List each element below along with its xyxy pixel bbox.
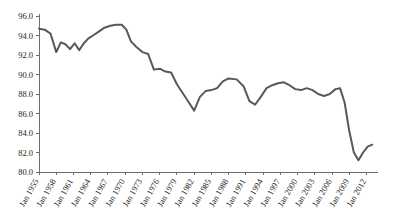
y-tick-label: 88.0 [18,89,33,99]
y-tick-label: 92.0 [18,50,33,60]
y-tick-label: 90.0 [18,70,33,80]
chart-canvas: 96.094.092.090.088.086.084.082.080.0 Jan… [0,0,393,223]
y-tick-label: 94.0 [18,31,33,41]
y-tick-label: 84.0 [18,128,33,138]
line-chart: 96.094.092.090.088.086.084.082.080.0 Jan… [0,0,393,223]
y-axis-tick-labels: 96.094.092.090.088.086.084.082.080.0 [18,11,33,177]
y-tick-label: 96.0 [18,11,33,21]
data-series-line [39,25,372,161]
y-tick-label: 82.0 [18,148,33,158]
y-tick-label: 86.0 [18,109,33,119]
x-axis-tick-labels: Jan 1955Jan 1958Jan 1961Jan 1964Jan 1967… [17,176,368,208]
y-tick-label: 80.0 [18,167,33,177]
